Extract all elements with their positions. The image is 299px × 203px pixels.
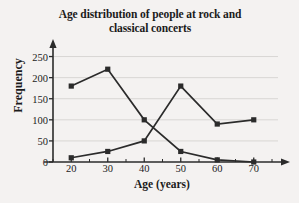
data-point-marker-classical-20 xyxy=(69,155,74,160)
data-point-marker-rock-20 xyxy=(69,83,74,88)
data-point-marker-classical-70 xyxy=(251,117,256,122)
series-line-classical xyxy=(71,86,254,158)
data-point-marker-rock-30 xyxy=(105,67,110,72)
plot-area xyxy=(0,0,299,203)
data-point-marker-rock-70 xyxy=(251,159,256,164)
data-point-marker-rock-60 xyxy=(215,157,220,162)
data-point-marker-classical-30 xyxy=(105,149,110,154)
data-point-marker-classical-60 xyxy=(215,121,220,126)
data-point-marker-rock-40 xyxy=(142,117,147,122)
series-line-rock xyxy=(71,69,254,162)
y-axis-arrow-icon xyxy=(49,39,56,48)
data-point-marker-classical-50 xyxy=(178,83,183,88)
data-point-marker-classical-40 xyxy=(142,138,147,143)
chart-figure: Age distribution of people at rock and c… xyxy=(0,0,299,203)
x-axis-arrow-icon xyxy=(281,158,290,165)
data-point-marker-rock-50 xyxy=(178,149,183,154)
